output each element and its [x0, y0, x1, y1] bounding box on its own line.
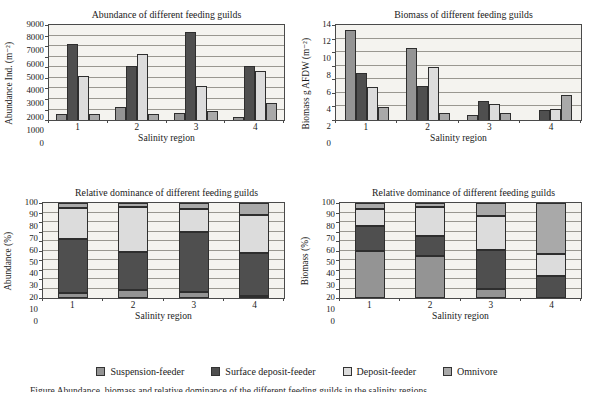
- chart-title: Relative dominance of different feeding …: [297, 187, 594, 198]
- x-tick-label: 2: [107, 122, 166, 132]
- legend-item-suspension-feeder: Suspension-feeder: [96, 366, 184, 377]
- y-tick-label: 90: [326, 209, 335, 219]
- category-slot: [103, 203, 163, 298]
- figure-caption-cropped: Figure Abundance, biomass and relative d…: [0, 385, 594, 392]
- legend: Suspension-feeder Surface deposit-feeder…: [0, 360, 594, 382]
- x-tick-label: 1: [335, 122, 397, 132]
- x-tick-mark: [166, 120, 167, 123]
- bar-surface-deposit-feeder: [478, 101, 489, 120]
- x-axis-ticks: 1234: [48, 121, 285, 132]
- x-tick-label: 4: [520, 122, 582, 132]
- x-tick-mark: [48, 120, 49, 123]
- y-tick-label: 8: [327, 70, 331, 80]
- y-axis-ticks: 0102030405060708090100: [16, 202, 42, 321]
- stacked-bar: [355, 203, 385, 298]
- y-tick-label: 40: [326, 268, 335, 278]
- x-axis-ticks: 1234: [42, 299, 285, 310]
- segment-deposit-feeder: [536, 254, 566, 276]
- bar-suspension-feeder: [467, 115, 478, 120]
- y-tick-label: 9000: [26, 19, 44, 29]
- y-tick-label: 5000: [26, 72, 44, 82]
- x-tick-label: 4: [224, 300, 285, 310]
- segment-suspension-feeder: [355, 251, 385, 298]
- segment-surface-deposit-feeder: [179, 232, 209, 292]
- legend-item-omnivore: Omnivore: [443, 366, 498, 377]
- bar-omnivore: [89, 114, 100, 120]
- x-tick-mark: [42, 298, 43, 301]
- y-tick-label: 80: [326, 221, 335, 231]
- y-tick-label: 60: [326, 245, 335, 255]
- bar-surface-deposit-feeder: [356, 73, 367, 121]
- x-tick-mark: [520, 298, 521, 301]
- y-tick-label: 30: [29, 280, 38, 290]
- x-tick-label: 3: [461, 300, 522, 310]
- x-tick-label: 4: [521, 300, 582, 310]
- category-slot: [43, 203, 103, 298]
- segment-surface-deposit-feeder: [118, 252, 148, 289]
- y-tick-label: 20: [29, 292, 38, 302]
- segment-omnivore: [179, 203, 209, 209]
- category-slot: [461, 203, 521, 298]
- segment-omnivore: [355, 203, 385, 209]
- segment-deposit-feeder: [239, 215, 269, 253]
- y-tick-label: 0: [327, 138, 331, 148]
- x-tick-mark: [223, 298, 224, 301]
- segment-suspension-feeder: [118, 290, 148, 299]
- y-axis-label: Biomass (%): [297, 202, 313, 321]
- bar-deposit-feeder: [78, 76, 89, 120]
- x-tick-mark: [396, 120, 397, 123]
- category-slot: [167, 25, 226, 120]
- stacked-bar: [476, 203, 506, 298]
- x-tick-label: 1: [48, 122, 107, 132]
- y-tick-label: 90: [29, 209, 38, 219]
- chart-title: Biomass of different feeding guilds: [297, 9, 594, 20]
- bar-surface-deposit-feeder: [126, 66, 137, 120]
- charts-grid: Abundance of different feeding guilds Ab…: [0, 0, 594, 358]
- stacked-bar: [58, 203, 88, 298]
- x-tick-label: 2: [400, 300, 461, 310]
- bar-deposit-feeder: [367, 87, 378, 120]
- y-tick-label: 100: [322, 197, 335, 207]
- segment-suspension-feeder: [476, 289, 506, 299]
- y-tick-label: 70: [326, 233, 335, 243]
- segment-omnivore: [118, 203, 148, 207]
- category-slot: [400, 203, 460, 298]
- suspension-feeder-swatch-icon: [96, 367, 105, 376]
- x-tick-mark: [580, 298, 581, 301]
- legend-label: Omnivore: [457, 366, 498, 377]
- y-tick-label: 40: [29, 268, 38, 278]
- x-tick-label: 3: [164, 300, 225, 310]
- chart-biomass: Biomass of different feeding guilds Biom…: [297, 0, 594, 182]
- stacked-bar: [415, 203, 445, 298]
- y-tick-label: 50: [326, 257, 335, 267]
- segment-deposit-feeder: [118, 207, 148, 253]
- legend-label: Suspension-feeder: [110, 366, 184, 377]
- omnivore-swatch-icon: [443, 367, 452, 376]
- category-slot: [225, 25, 284, 120]
- y-tick-label: 8000: [26, 32, 44, 42]
- segment-surface-deposit-feeder: [239, 253, 269, 296]
- y-axis-label: Abundance (%): [0, 202, 16, 321]
- bar-suspension-feeder: [174, 113, 185, 120]
- y-tick-label: 30: [326, 280, 335, 290]
- y-tick-label: 60: [29, 245, 38, 255]
- category-slot: [49, 25, 108, 120]
- y-tick-label: 12: [322, 36, 331, 46]
- y-tick-label: 6000: [26, 59, 44, 69]
- legend-label: Surface deposit-feeder: [225, 366, 315, 377]
- x-tick-mark: [399, 298, 400, 301]
- chart-relative-biomass: Relative dominance of different feeding …: [297, 182, 594, 358]
- stacked-bar: [179, 203, 209, 298]
- y-axis-ticks: 02468101214: [313, 24, 335, 143]
- x-tick-label: 3: [167, 122, 226, 132]
- x-axis-label: Salinity region: [339, 310, 582, 321]
- legend-label: Deposit-feeder: [357, 366, 416, 377]
- x-tick-mark: [283, 298, 284, 301]
- bar-suspension-feeder: [56, 114, 67, 120]
- y-tick-label: 100: [25, 197, 38, 207]
- plot-area: [48, 24, 285, 121]
- segment-surface-deposit-feeder: [355, 226, 385, 252]
- chart-relative-abundance: Relative dominance of different feeding …: [0, 182, 297, 358]
- segment-surface-deposit-feeder: [536, 276, 566, 298]
- stacked-bar: [239, 203, 269, 298]
